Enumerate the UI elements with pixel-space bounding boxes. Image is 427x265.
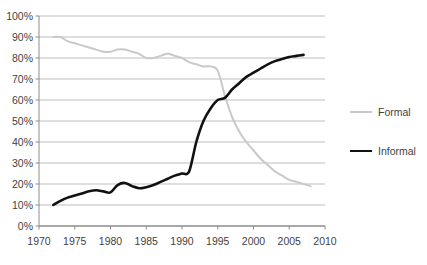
legend-line-formal-icon xyxy=(350,111,372,113)
x-tick-label: 2000 xyxy=(234,236,274,247)
y-tick-label: 80% xyxy=(0,53,33,64)
y-tick-label: 70% xyxy=(0,74,33,85)
legend-item-informal: Informal xyxy=(350,141,424,161)
x-tick-label: 1980 xyxy=(91,236,131,247)
x-tick-label: 1985 xyxy=(126,236,166,247)
chart-legend: Formal Informal xyxy=(350,102,424,180)
line-chart: 0%10%20%30%40%50%60%70%80%90%100% 197019… xyxy=(0,0,427,265)
y-tick-label: 100% xyxy=(0,11,33,22)
y-tick-label: 30% xyxy=(0,158,33,169)
legend-label-informal: Informal xyxy=(378,146,416,157)
legend-label-formal: Formal xyxy=(378,107,411,118)
y-tick-label: 90% xyxy=(0,32,33,43)
y-tick-label: 0% xyxy=(0,221,33,232)
y-tick-label: 20% xyxy=(0,179,33,190)
x-tick-label: 1975 xyxy=(55,236,95,247)
axis-ticks xyxy=(36,16,326,230)
y-tick-label: 10% xyxy=(0,200,33,211)
x-tick-label: 1995 xyxy=(198,236,238,247)
x-tick-label: 2005 xyxy=(269,236,309,247)
x-tick-label: 1970 xyxy=(19,236,59,247)
legend-item-formal: Formal xyxy=(350,102,424,122)
y-tick-label: 40% xyxy=(0,137,33,148)
x-tick-label: 1990 xyxy=(162,236,202,247)
x-tick-label: 2010 xyxy=(305,236,345,247)
y-tick-label: 50% xyxy=(0,116,33,127)
y-tick-label: 60% xyxy=(0,95,33,106)
legend-line-informal-icon xyxy=(350,150,372,152)
